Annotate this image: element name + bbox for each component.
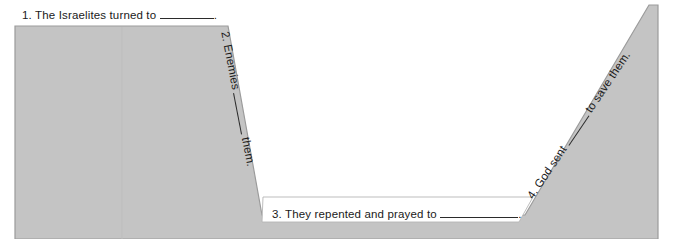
step-2-number: 2.: [219, 30, 233, 42]
step-1-label: 1. The Israelites turned to .: [22, 7, 217, 22]
worksheet-canvas: 1. The Israelites turned to . 2. Enemies…: [0, 0, 673, 239]
step-3-number: 3.: [272, 208, 282, 220]
step-3-blank[interactable]: [440, 206, 518, 218]
step-3-text-before: They repented and prayed to: [285, 208, 437, 220]
step-3-text-after: .: [518, 208, 521, 220]
step-3-label: 3. They repented and prayed to .: [272, 206, 522, 221]
step-1-number: 1.: [22, 9, 32, 21]
step-1-text-after: .: [214, 9, 217, 21]
step-1-text-before: The Israelites turned to: [35, 9, 156, 21]
step-1-blank[interactable]: [160, 7, 214, 19]
